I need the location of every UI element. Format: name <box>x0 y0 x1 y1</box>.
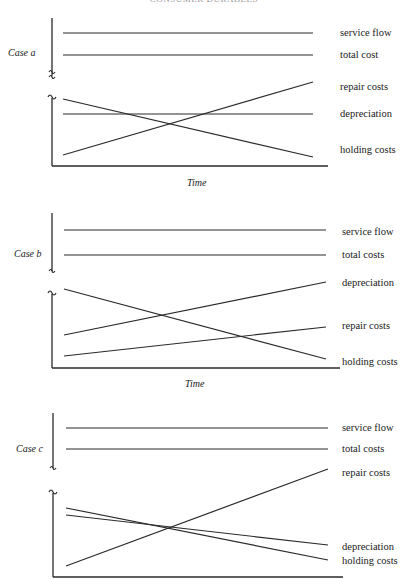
case-a-holding-costs-label: holding costs <box>340 144 396 155</box>
case-b-axis-break-icon <box>49 270 55 273</box>
case-b-holding-costs-line <box>64 289 326 359</box>
case-b-repair-costs-line <box>64 327 326 356</box>
case-b-diagram: Case b service flow total costs deprecia… <box>14 213 398 389</box>
case-b-holding-costs-label: holding costs <box>342 356 398 367</box>
case-b-repair-costs-label: repair costs <box>342 320 390 331</box>
case-c-label: Case c <box>16 443 44 454</box>
case-a-diagram: Case a service flow total cost repair co… <box>8 18 396 188</box>
case-b-service-flow-label: service flow <box>342 226 394 237</box>
case-c-total-costs-label: total costs <box>342 443 384 454</box>
case-c-holding-costs-label: holding costs <box>342 555 398 566</box>
case-c-repair-costs-label: repair costs <box>342 467 390 478</box>
case-c-diagram: Case c service flow total costs repair c… <box>16 413 398 577</box>
case-c-holding-costs-line <box>66 508 328 560</box>
case-b-depreciation-label: depreciation <box>342 277 395 288</box>
cost-diagrams: Case a service flow total cost repair co… <box>0 0 408 579</box>
case-c-depreciation-label: depreciation <box>342 541 395 552</box>
case-b-time-label: Time <box>185 378 205 389</box>
case-a-service-flow-label: service flow <box>340 27 392 38</box>
case-a-axis-break-icon <box>49 71 55 79</box>
case-a-label: Case a <box>8 47 36 58</box>
case-c-service-flow-label: service flow <box>342 422 394 433</box>
case-b-depreciation-line <box>64 282 326 335</box>
case-c-repair-costs-line <box>66 469 328 566</box>
case-a-depreciation-label: depreciation <box>340 108 393 119</box>
case-a-repair-costs-line <box>63 82 313 155</box>
case-a-repair-costs-label: repair costs <box>340 81 388 92</box>
case-b-label: Case b <box>14 248 42 259</box>
case-b-total-costs-label: total costs <box>342 249 384 260</box>
case-a-total-cost-label: total cost <box>340 49 378 60</box>
case-c-depreciation-line <box>66 515 328 545</box>
case-a-time-label: Time <box>187 177 207 188</box>
case-a-holding-costs-line <box>63 99 313 157</box>
case-c-axis-break-icon <box>50 467 56 470</box>
